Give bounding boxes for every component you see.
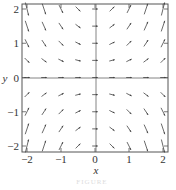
field-arrow bbox=[42, 4, 46, 15]
field-arrow bbox=[25, 58, 30, 63]
field-arrow bbox=[144, 93, 149, 97]
field-arrow bbox=[58, 93, 63, 96]
field-arrow bbox=[110, 127, 115, 131]
field-arrow bbox=[161, 21, 165, 32]
field-arrow bbox=[109, 110, 114, 113]
y-tick-label: 0 bbox=[14, 72, 20, 84]
field-arrow bbox=[144, 125, 148, 134]
field-arrow bbox=[144, 4, 148, 15]
field-arrow bbox=[59, 126, 63, 132]
field-arrow bbox=[59, 23, 63, 29]
field-arrow bbox=[127, 23, 131, 29]
field-arrow bbox=[75, 94, 81, 96]
vector-field-plot: −2−1012−2−1012xy bbox=[0, 0, 176, 175]
field-arrow bbox=[110, 7, 115, 12]
field-arrow bbox=[92, 42, 98, 44]
field-arrow bbox=[25, 92, 30, 97]
field-arrow bbox=[144, 59, 149, 63]
field-arrow bbox=[42, 125, 46, 134]
field-arrow bbox=[92, 111, 98, 113]
field-arrow bbox=[126, 93, 131, 96]
field-arrow bbox=[92, 8, 98, 10]
field-arrow bbox=[76, 144, 81, 149]
field-arrow bbox=[75, 60, 81, 62]
y-tick-label: 2 bbox=[14, 3, 20, 15]
field-arrow bbox=[42, 93, 47, 97]
x-tick-label: −1 bbox=[55, 153, 67, 165]
field-arrow bbox=[144, 22, 148, 31]
field-arrow bbox=[75, 110, 80, 113]
field-arrow bbox=[76, 7, 81, 12]
x-tick-label: 1 bbox=[126, 153, 132, 165]
field-arrow bbox=[42, 59, 47, 63]
field-arrow bbox=[42, 40, 46, 46]
field-arrow bbox=[59, 109, 64, 114]
field-arrows bbox=[24, 3, 166, 153]
y-tick-label: −1 bbox=[7, 106, 19, 118]
field-arrow bbox=[58, 59, 63, 62]
field-arrow bbox=[109, 42, 114, 45]
field-arrow bbox=[42, 22, 46, 31]
y-axis-label: y bbox=[2, 72, 8, 84]
field-arrow bbox=[109, 59, 115, 61]
field-arrow bbox=[76, 24, 81, 28]
field-arrow bbox=[109, 94, 115, 96]
field-arrow bbox=[161, 58, 166, 63]
field-arrow bbox=[161, 92, 166, 97]
field-arrow bbox=[59, 41, 64, 46]
field-arrow bbox=[42, 109, 46, 115]
field-arrow bbox=[126, 59, 131, 62]
field-arrow bbox=[144, 40, 148, 46]
field-arrow bbox=[127, 126, 131, 132]
field-arrow bbox=[110, 24, 115, 28]
field-arrow bbox=[25, 21, 29, 32]
field-arrow bbox=[127, 109, 132, 114]
y-tick-label: −2 bbox=[7, 140, 19, 152]
field-arrow bbox=[92, 60, 98, 62]
field-arrow bbox=[42, 141, 46, 152]
field-arrow bbox=[76, 127, 81, 131]
x-tick-label: 2 bbox=[160, 153, 166, 165]
y-tick-label: 1 bbox=[14, 37, 20, 49]
field-arrow bbox=[92, 128, 98, 130]
field-arrow bbox=[92, 94, 98, 96]
field-arrow bbox=[161, 124, 165, 135]
figure-caption: FIGURE bbox=[42, 178, 142, 186]
field-arrow bbox=[144, 109, 148, 115]
field-arrow bbox=[25, 124, 29, 135]
field-arrow bbox=[92, 145, 98, 147]
field-arrow bbox=[144, 141, 148, 152]
field-arrow bbox=[92, 25, 98, 27]
field-arrow bbox=[127, 41, 132, 46]
x-tick-label: −2 bbox=[21, 153, 33, 165]
x-axis-label: x bbox=[93, 164, 99, 175]
field-arrow bbox=[75, 42, 80, 45]
field-arrow bbox=[110, 144, 115, 149]
